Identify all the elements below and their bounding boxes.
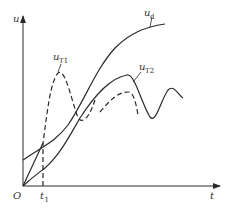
t1-label: t 1 [40,190,49,204]
origin-label: O [13,190,21,201]
y-axis-label: u [13,13,19,24]
x-axis-label: t [210,190,215,201]
u-t2-leader [133,72,141,82]
waveform-diagram: u t O t 1 u d u T1 u T2 [0,0,230,223]
svg-text:d: d [150,13,155,21]
u-t1-label: u T1 [53,51,68,65]
line-origin-to-t1 [23,143,43,186]
u-t2-label: u T2 [139,61,154,75]
curve-u-d [23,24,165,160]
svg-text:T2: T2 [145,67,154,75]
svg-text:T1: T1 [59,57,68,65]
curve-u-t2 [23,75,183,186]
u-t1-leader [58,64,61,72]
svg-text:1: 1 [45,196,49,204]
curve-u-t2-dashed [100,92,138,115]
curve-u-t1 [43,72,95,186]
u-d-label: u d [144,7,155,21]
